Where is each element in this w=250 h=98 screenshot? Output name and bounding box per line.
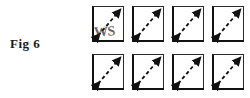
diagonal-arrow-icon bbox=[134, 55, 163, 88]
cell-row bbox=[92, 54, 248, 92]
grid-cell bbox=[132, 54, 164, 90]
grid-cell bbox=[212, 54, 244, 90]
diagonal-arrow-icon bbox=[214, 55, 243, 88]
grid-cell bbox=[172, 54, 204, 90]
diagonal-arrow-icon bbox=[214, 7, 243, 40]
cell-row bbox=[92, 6, 248, 44]
figure-caption: Fig 6 bbox=[10, 37, 40, 50]
grid-cell bbox=[92, 54, 124, 90]
diagonal-arrow-icon bbox=[174, 55, 203, 88]
diagonal-arrow-icon bbox=[174, 7, 203, 40]
grid-cell bbox=[212, 6, 244, 42]
diagonal-arrow-icon bbox=[134, 7, 163, 40]
diagonal-arrow-icon bbox=[94, 55, 123, 88]
figure-diagram: Fig 6 bbox=[0, 0, 250, 98]
grid-cell bbox=[132, 6, 164, 42]
grid-cell bbox=[172, 6, 204, 42]
grid-cell bbox=[92, 6, 124, 42]
diagonal-arrow-icon bbox=[94, 7, 123, 40]
cell-grid bbox=[92, 6, 248, 92]
